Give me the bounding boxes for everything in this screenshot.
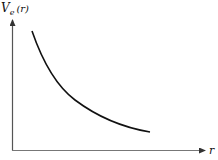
x-axis-label: r [209, 144, 215, 157]
y-label-argument: (r) [16, 3, 29, 14]
y-label-subscript: e [10, 8, 15, 17]
potential-diagram: Ve(r) r [0, 0, 218, 160]
potential-curve [32, 31, 150, 132]
y-axis-label: Ve(r) [1, 1, 29, 17]
